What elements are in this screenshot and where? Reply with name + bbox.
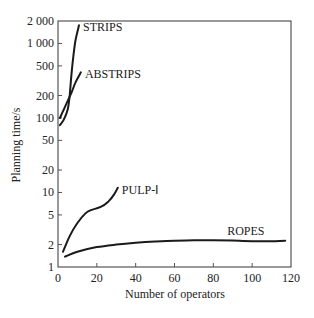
planning-time-chart: 020406080100120 1251020501002005001 0002…	[0, 0, 314, 318]
y-axis: 1251020501002005001 0002 000	[27, 14, 62, 274]
y-tick-label: 100	[36, 111, 54, 125]
series-label-pulp-i: PULP-Ⅰ	[122, 183, 159, 197]
x-tick-label: 100	[243, 271, 261, 285]
y-tick-label: 5	[48, 208, 54, 222]
series-labels: STRIPSABSTRIPSPULP-ⅠROPES	[83, 20, 265, 238]
series-line-ropes	[65, 240, 285, 256]
y-tick-label: 1 000	[27, 36, 54, 50]
y-tick-label: 50	[42, 133, 54, 147]
x-tick-label: 80	[207, 271, 219, 285]
x-tick-label: 120	[282, 271, 300, 285]
x-tick-label: 20	[91, 271, 103, 285]
y-tick-label: 200	[36, 89, 54, 103]
series-label-strips: STRIPS	[83, 20, 122, 34]
x-axis: 020406080100120	[55, 263, 300, 285]
y-tick-label: 2 000	[27, 14, 54, 28]
y-tick-label: 500	[36, 59, 54, 73]
y-tick-label: 1	[48, 260, 54, 274]
y-axis-label: Planning time/s	[9, 107, 23, 182]
series-line-pulp-i	[63, 188, 118, 252]
series-label-abstrips: ABSTRIPS	[85, 67, 141, 81]
series-lines	[60, 25, 285, 256]
x-axis-label: Number of operators	[125, 287, 225, 301]
x-tick-label: 40	[130, 271, 142, 285]
y-tick-label: 2	[48, 238, 54, 252]
x-tick-label: 0	[55, 271, 61, 285]
y-tick-label: 10	[42, 185, 54, 199]
y-tick-label: 20	[42, 163, 54, 177]
x-tick-label: 60	[169, 271, 181, 285]
series-label-ropes: ROPES	[227, 224, 264, 238]
